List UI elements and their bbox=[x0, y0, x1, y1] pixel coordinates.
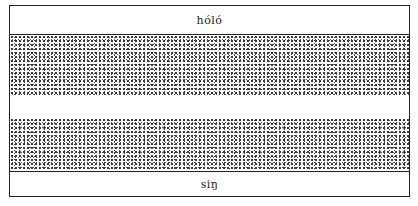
stippled-band-upper bbox=[10, 35, 409, 96]
bottom-label: siŋ bbox=[201, 178, 219, 191]
top-label-band: hóló bbox=[10, 6, 409, 35]
diagram-frame: hóló siŋ bbox=[9, 5, 410, 197]
stippled-band-lower bbox=[10, 118, 409, 172]
bottom-label-band: siŋ bbox=[10, 171, 409, 196]
top-label: hóló bbox=[197, 14, 223, 27]
